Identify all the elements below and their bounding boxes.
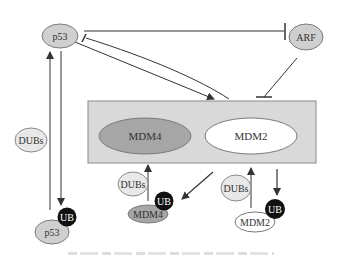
p53-mdm-regulation-diagram: MDM4 MDM2 p53 ARF DUBs p53 UB DUBs xyxy=(0,0,339,256)
ub-mdm2-label: UB xyxy=(268,204,282,215)
p53-ubiquitinated-node[interactable]: p53 UB xyxy=(35,208,77,245)
complex-mdm4-label: MDM4 xyxy=(128,130,162,142)
dubs-p53-label: DUBs xyxy=(18,135,43,146)
ub-tag-mdm4: UB xyxy=(155,192,174,211)
mdm2-ubiquitinates-mdm4-arrow xyxy=(182,172,213,199)
mdm4-ub-label: MDM4 xyxy=(133,209,163,220)
p53-ub-label: p53 xyxy=(45,227,60,238)
ub-p53-label: UB xyxy=(60,212,74,223)
figure-caption-cutoff xyxy=(68,250,274,256)
ub-tag-p53: UB xyxy=(58,208,77,227)
p53-activates-complex-edge xyxy=(75,42,214,99)
dubs-mdm4-node[interactable]: DUBs xyxy=(118,172,148,196)
arf-label: ARF xyxy=(296,32,316,43)
p53-inhibits-arf-edge xyxy=(84,23,285,40)
mdm2-ub-label: MDM2 xyxy=(240,217,270,228)
complex-mdm2-node[interactable]: MDM2 xyxy=(205,118,297,154)
p53-label: p53 xyxy=(53,31,68,42)
mdm-complex-box: MDM4 MDM2 xyxy=(88,101,316,163)
complex-mdm2-label: MDM2 xyxy=(234,130,267,142)
ub-mdm4-label: UB xyxy=(157,196,171,207)
dubs-mdm4-label: DUBs xyxy=(120,179,145,190)
arf-inhibits-complex-edge xyxy=(256,58,297,97)
dubs-mdm2-node[interactable]: DUBs xyxy=(221,175,251,201)
complex-inhibits-p53-edge xyxy=(82,34,229,99)
dubs-p53-node[interactable]: DUBs xyxy=(15,128,47,152)
arf-node[interactable]: ARF xyxy=(289,24,323,50)
p53-node[interactable]: p53 xyxy=(42,24,78,48)
dubs-mdm2-label: DUBs xyxy=(223,183,248,194)
ub-tag-mdm2: UB xyxy=(265,199,285,219)
mdm2-ubiquitinated-node[interactable]: MDM2 UB xyxy=(235,199,285,232)
complex-mdm4-node[interactable]: MDM4 xyxy=(99,118,191,154)
